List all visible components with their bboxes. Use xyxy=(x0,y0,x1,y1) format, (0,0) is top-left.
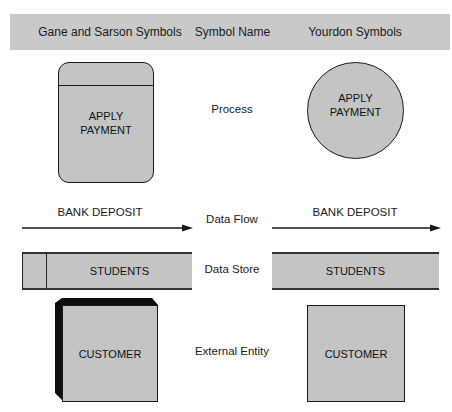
gane-sarson-flow-arrow xyxy=(20,222,195,234)
yourdon-store-text: STUDENTS xyxy=(272,264,439,278)
gane-sarson-process-text: APPLY PAYMENT xyxy=(59,109,153,137)
gane-sarson-flow-label: BANK DEPOSIT xyxy=(40,206,160,218)
yourdon-process-text: APPLY PAYMENT xyxy=(330,91,382,119)
header-symbol-name: Symbol Name xyxy=(180,14,285,50)
header-gane-sarson: Gane and Sarson Symbols xyxy=(30,14,190,50)
label-external-entity: External Entity xyxy=(182,345,282,357)
yourdon-entity-symbol: CUSTOMER xyxy=(307,305,405,402)
yourdon-data-store-symbol: STUDENTS xyxy=(272,252,439,290)
gane-sarson-entity-text: CUSTOMER xyxy=(79,347,142,361)
yourdon-flow-label: BANK DEPOSIT xyxy=(295,206,415,218)
gane-sarson-data-store-symbol: STUDENTS xyxy=(22,252,192,290)
yourdon-process-symbol: APPLY PAYMENT xyxy=(307,62,404,159)
header-yourdon: Yourdon Symbols xyxy=(300,14,410,50)
process-id-divider xyxy=(59,85,153,86)
gane-sarson-store-text: STUDENTS xyxy=(47,264,192,278)
yourdon-flow-arrow xyxy=(270,222,445,234)
label-data-store: Data Store xyxy=(187,263,277,275)
gane-sarson-process-symbol: APPLY PAYMENT xyxy=(58,62,154,183)
label-data-flow: Data Flow xyxy=(187,213,277,225)
label-process: Process xyxy=(187,103,277,115)
gane-sarson-entity-symbol: CUSTOMER xyxy=(62,305,158,402)
yourdon-entity-text: CUSTOMER xyxy=(325,347,388,361)
